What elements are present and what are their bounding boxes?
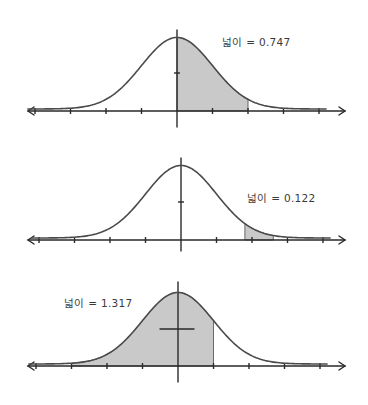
panel-3-area-label: 넓이 = 1.317	[64, 295, 133, 310]
panel-1-area-label: 넓이 = 0.747	[222, 34, 291, 49]
panel-2-area-label: 넓이 = 0.122	[247, 190, 316, 205]
normal-curve-panel-1	[28, 30, 345, 127]
